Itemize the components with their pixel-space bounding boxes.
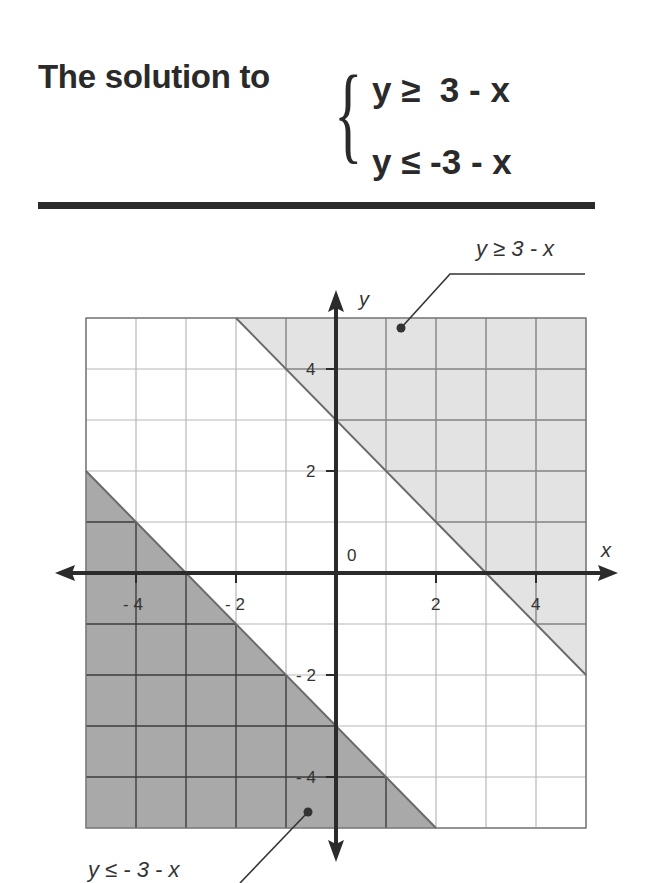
callout-lower-label: y ≤ - 3 - x: [86, 857, 181, 882]
y-tick-label: 4: [306, 360, 315, 379]
y-tick-label: - 4: [296, 768, 316, 787]
y-tick-label: - 2: [296, 666, 316, 685]
x-axis-label: x: [600, 539, 612, 561]
callout-upper-dot: [397, 324, 406, 333]
callout-upper-label: y ≥ 3 - x: [474, 236, 555, 261]
x-axis-arrow-left-icon: [55, 565, 75, 581]
inequality-graph: - 4 - 2 2 4 4 2 - 2 - 4 0 x y y ≥ 3 - x …: [0, 0, 652, 883]
origin-label: 0: [347, 546, 356, 565]
x-tick-label: 4: [531, 595, 540, 614]
y-axis-label: y: [357, 288, 370, 310]
x-tick-label: 2: [431, 595, 440, 614]
x-axis-arrow-right-icon: [598, 565, 618, 581]
callout-lower-dot: [304, 808, 313, 817]
x-tick-label: - 2: [225, 595, 245, 614]
x-tick-label: - 4: [123, 595, 143, 614]
y-tick-label: 2: [306, 462, 315, 481]
